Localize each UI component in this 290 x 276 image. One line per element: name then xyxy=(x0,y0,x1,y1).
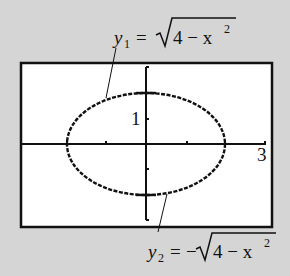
y2-equation-label: y 2 = − 4 − x 2 xyxy=(146,233,276,265)
svg-text:2: 2 xyxy=(158,251,164,265)
svg-text:4 − x: 4 − x xyxy=(173,27,213,48)
svg-text:2: 2 xyxy=(224,22,230,36)
svg-text:2: 2 xyxy=(264,236,270,250)
svg-text:4 − x: 4 − x xyxy=(213,241,253,262)
svg-text:y: y xyxy=(146,241,157,262)
svg-text:=: = xyxy=(170,241,181,262)
svg-text:1: 1 xyxy=(124,37,130,51)
svg-text:=: = xyxy=(136,27,147,48)
x-tick-label: 3 xyxy=(257,144,267,165)
svg-text:y: y xyxy=(112,27,123,48)
y-tick-label: 1 xyxy=(131,108,141,129)
graph-figure: 1 3 y 1 = 4 − x 2 y 2 = − 4 − x 2 xyxy=(0,0,290,276)
y1-equation-label: y 1 = 4 − x 2 xyxy=(112,18,236,51)
svg-text:−: − xyxy=(186,241,197,262)
